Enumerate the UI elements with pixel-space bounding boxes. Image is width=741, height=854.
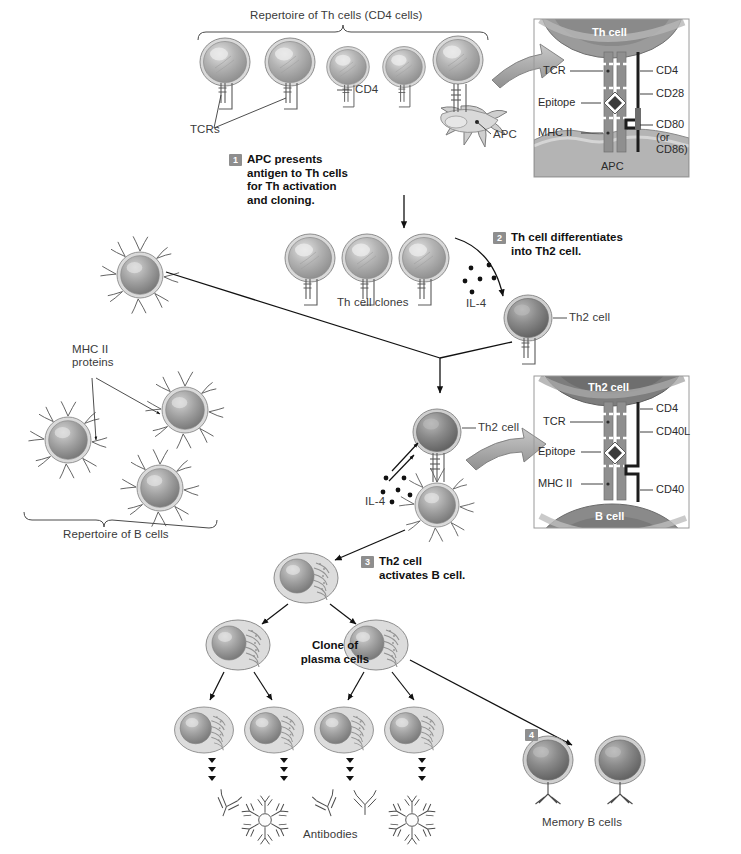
clone-of-plasma-cells-label: Clone of plasma cells <box>289 639 381 666</box>
th-cell-row <box>200 36 483 109</box>
apc-label: APC <box>493 128 517 140</box>
cd4-label: CD4 <box>355 83 378 95</box>
antibodies-label: Antibodies <box>303 828 358 840</box>
figure-canvas: Repertoire of Th cells (CD4 cells) TCRs … <box>0 0 741 854</box>
b-cell-repertoire <box>28 236 224 526</box>
il4-label-mid: IL-4 <box>365 495 385 507</box>
memory-b-cells-label: Memory B cells <box>542 816 622 828</box>
th-clone-cells <box>285 234 449 305</box>
il4-particles-top <box>463 263 497 295</box>
panel-bottom-epitope-label: Epitope <box>538 445 575 458</box>
th2-b-cell-pair <box>399 409 474 542</box>
th-clones-label: Th cell clones <box>337 296 409 308</box>
step-badge-2: 2 <box>493 232 506 244</box>
il4-dashed-arrows <box>389 443 418 481</box>
tcrs-label: TCRs <box>190 123 220 135</box>
memory-b-cells <box>523 736 645 804</box>
step-3-text: Th2 cell activates B cell. <box>379 555 499 582</box>
th2-label-mid: Th2 cell <box>478 421 519 433</box>
panel-top-cell-label: Th cell <box>592 26 627 38</box>
antibody-secretion-marks <box>208 758 426 781</box>
b-repertoire-label: Repertoire of B cells <box>63 528 169 540</box>
panel-bottom-tcr-label: TCR <box>543 415 566 428</box>
panel-bottom-artwork <box>534 310 690 608</box>
panel-bottom-cell-label: Th2 cell <box>588 381 629 393</box>
il4-label-top: IL-4 <box>466 297 486 309</box>
th-repertoire-bracket <box>198 25 488 40</box>
arrow-to-th2 <box>455 238 503 296</box>
panel-top-epitope-label: Epitope <box>538 96 575 109</box>
panel-top-cd80-label: CD80 (or CD86) <box>656 118 688 156</box>
panel-bottom-bcell-label: B cell <box>595 510 624 522</box>
panel-bottom-cd40-label: CD40 <box>656 483 684 496</box>
diagram-artwork <box>0 0 741 854</box>
panel-bottom-cd4-label: CD4 <box>656 402 678 415</box>
mhc2-proteins-label: MHC II proteins <box>72 343 114 369</box>
th2-label-top: Th2 cell <box>569 311 610 323</box>
panel-bottom-mhc2-label: MHC II <box>538 477 572 490</box>
panel-top-apc-label: APC <box>601 160 624 173</box>
panel-top-mhc2-label: MHC II <box>538 126 572 139</box>
step-badge-1: 1 <box>229 154 242 166</box>
panel-top-cd28-label: CD28 <box>656 87 684 100</box>
step-2-text: Th cell differentiates into Th2 cell. <box>511 231 646 258</box>
panel-top-tcr-label: TCR <box>543 64 566 77</box>
th2-cell-upper <box>504 295 552 364</box>
converge-lines <box>166 272 512 393</box>
step-badge-3: 3 <box>361 556 374 568</box>
step-1-text: APC presents antigen to Th cells for Th … <box>247 153 387 207</box>
mhc2-leader-lines <box>92 378 160 440</box>
panel-bottom-cd40l-label: CD40L <box>656 425 690 438</box>
step-badge-4: 4 <box>525 729 538 741</box>
th-repertoire-label: Repertoire of Th cells (CD4 cells) <box>250 9 423 21</box>
panel-top-cd4-label: CD4 <box>656 64 678 77</box>
